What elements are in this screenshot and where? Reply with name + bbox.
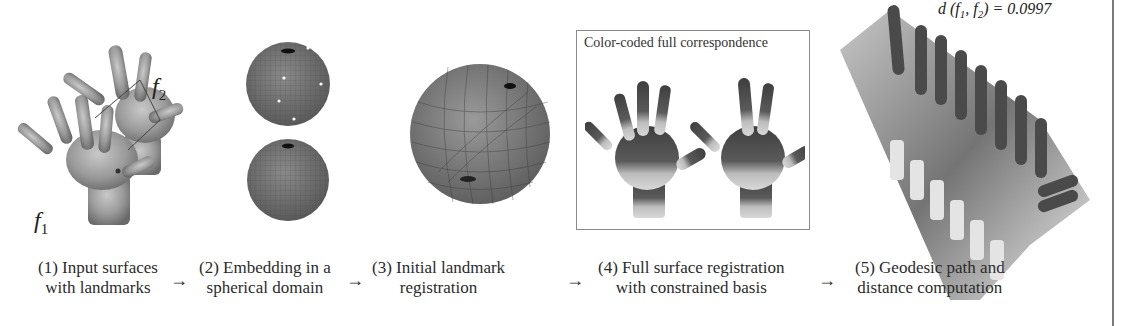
panel-landmark-registration <box>408 62 553 207</box>
hand-right <box>688 78 805 218</box>
panel-input-surfaces: f2 f1 <box>0 0 230 245</box>
caption-step-2: (2) Embedding in aspherical domain <box>199 258 331 298</box>
spheres-illustration <box>240 40 350 225</box>
sphere-bottom <box>247 139 329 221</box>
arrow-4-5: → <box>818 270 836 291</box>
caption-step-5: (5) Geodesic path anddistance computatio… <box>855 258 1005 298</box>
arrow-2-3: → <box>346 270 364 291</box>
correspondence-box-title: Color-coded full correspondence <box>584 35 768 51</box>
panel-spherical-embedding <box>240 40 350 225</box>
caption-step-1: (1) Input surfaceswith landmarks <box>38 258 158 298</box>
caption-step-3: (3) Initial landmarkregistration <box>372 258 505 298</box>
label-f1: f1 <box>34 207 48 238</box>
corresponding-hands-illustration <box>585 53 805 225</box>
geodesic-distance-label: d (f1, f2) = 0.0997 <box>938 0 1051 20</box>
arrow-3-4: → <box>566 270 584 291</box>
label-f2: f2 <box>152 73 166 104</box>
arrow-1-2: → <box>170 270 188 291</box>
correspondence-box: Color-coded full correspondence <box>576 30 810 230</box>
hand-left <box>585 81 708 218</box>
sphere-top <box>246 42 330 126</box>
caption-step-4: (4) Full surface registrationwith constr… <box>598 258 784 298</box>
right-border-line <box>1112 0 1114 326</box>
registered-sphere-illustration <box>408 62 553 207</box>
